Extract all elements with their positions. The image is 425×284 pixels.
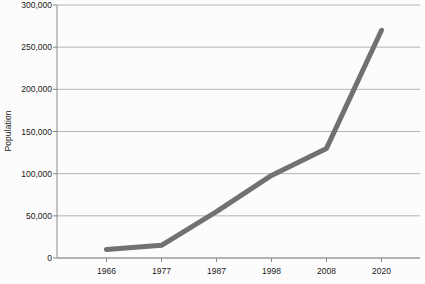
x-tick-label: 1977 (152, 266, 171, 276)
x-tick-label: 1987 (207, 266, 226, 276)
x-tick-label-group: 196619771987199820082020 (0, 0, 425, 284)
x-tick-label: 1998 (262, 266, 281, 276)
x-tick-label: 2020 (372, 266, 391, 276)
population-line-chart: Population 050,000100,000150,000200,0002… (0, 0, 425, 284)
x-tick-label: 2008 (317, 266, 336, 276)
x-tick-label: 1966 (97, 266, 116, 276)
